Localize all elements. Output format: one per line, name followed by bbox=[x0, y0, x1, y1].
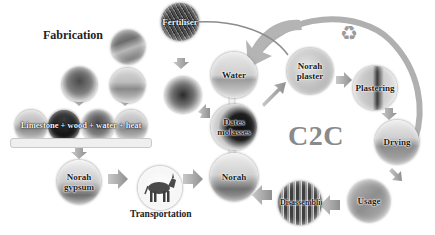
node-disassembling: Disassembling bbox=[278, 181, 322, 225]
node-norah-gypsum-label: Norah gypsum bbox=[59, 172, 99, 192]
arrow-plastering-to-drying bbox=[381, 108, 397, 120]
node-norah-plaster-label: Norah plaster bbox=[290, 61, 330, 81]
arrow-bar-down bbox=[71, 148, 87, 159]
raw-materials-bracket bbox=[10, 138, 152, 148]
fabrication-title: Fabrication bbox=[43, 28, 103, 43]
node-norah: Norah bbox=[210, 153, 258, 201]
arrow-transport-to-norah bbox=[183, 169, 203, 189]
node-usage-label: Usage bbox=[358, 196, 381, 206]
node-usage: Usage bbox=[348, 180, 390, 222]
stone-quarry-image bbox=[111, 30, 145, 64]
node-drying-label: Drying bbox=[384, 137, 411, 147]
node-dates-molasses: Dates molasses bbox=[211, 104, 257, 150]
seed-image bbox=[165, 77, 201, 113]
node-water: Water bbox=[211, 52, 257, 98]
arrow-drying-to-usage bbox=[389, 168, 402, 181]
node-drying: Drying bbox=[375, 120, 419, 164]
donkey-icon bbox=[138, 166, 182, 210]
arrow-plaster-to-plastering bbox=[336, 72, 352, 88]
node-fertiliser-label: Fertiliser bbox=[162, 17, 197, 27]
node-plastering: Plastering bbox=[353, 66, 397, 110]
arrow-gypsum-to-transport bbox=[108, 169, 128, 189]
node-fertiliser: Fertiliser bbox=[161, 3, 199, 41]
tree-image bbox=[62, 67, 97, 102]
recycle-icon: ♻ bbox=[338, 22, 360, 44]
node-norah-gypsum: Norah gypsum bbox=[57, 160, 101, 204]
node-water-label: Water bbox=[222, 70, 246, 80]
c2c-label: C2C bbox=[288, 120, 344, 152]
raw-materials-label: Limestone + wood + water + heat bbox=[12, 120, 150, 130]
arrow-usage-to-disassembling bbox=[320, 195, 340, 215]
node-dates-molasses-label: Dates molasses bbox=[214, 117, 254, 137]
arrow-norah-to-plaster bbox=[262, 82, 286, 107]
arrow-seed-to-dates bbox=[198, 104, 210, 118]
node-plastering-label: Plastering bbox=[356, 83, 395, 93]
node-norah-plaster: Norah plaster bbox=[287, 48, 333, 94]
transportation-label: Transportation bbox=[130, 209, 192, 219]
node-disassembling-label: Disassembling bbox=[280, 198, 320, 208]
node-norah-label: Norah bbox=[222, 172, 247, 182]
arrow-fert-down bbox=[173, 58, 189, 69]
raw-materials-group: Limestone + wood + water + heat bbox=[10, 110, 150, 148]
donkey-image bbox=[138, 166, 182, 210]
field-image bbox=[110, 68, 145, 103]
